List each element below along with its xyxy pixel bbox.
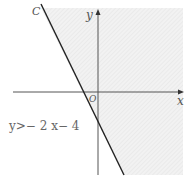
line-label-c: C: [32, 5, 41, 18]
y-axis-label: y: [85, 8, 93, 22]
x-axis-label: x: [177, 94, 184, 108]
inequality-label: y>− 2 x− 4: [8, 119, 80, 133]
origin-label: O: [89, 94, 97, 104]
inequality-graph: C y x O y>− 2 x− 4: [0, 0, 192, 185]
